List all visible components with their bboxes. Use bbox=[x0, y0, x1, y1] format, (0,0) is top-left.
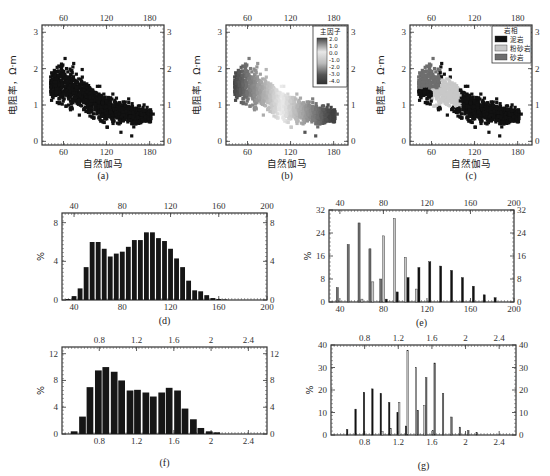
histogram-bar-泥岩 bbox=[355, 409, 357, 435]
histogram-bar-粉砂岩 bbox=[424, 406, 426, 435]
histogram-bar bbox=[132, 240, 137, 300]
x-top-tick-label: 180 bbox=[327, 13, 341, 23]
y-right-tick-label: 4 bbox=[270, 402, 275, 412]
y-tick-label: 1 bbox=[402, 100, 407, 110]
x-top-tick-label: 2.4 bbox=[494, 333, 506, 343]
histogram-bar bbox=[156, 238, 161, 300]
x-tick-label: 60 bbox=[243, 147, 253, 157]
x-tick-label: 120 bbox=[468, 147, 482, 157]
x-tick-label: 1.2 bbox=[131, 436, 142, 446]
x-tick-label: 60 bbox=[427, 147, 437, 157]
x-tick-label: 1.6 bbox=[426, 437, 438, 447]
histogram-bar bbox=[71, 431, 78, 434]
histogram-bar-泥岩 bbox=[363, 392, 365, 435]
x-top-tick-label: 1.2 bbox=[131, 335, 142, 345]
colorbar-tick: 0.0 bbox=[329, 50, 338, 56]
y-right-tick-label: 2 bbox=[535, 64, 540, 74]
histogram-bar-砂岩 bbox=[459, 427, 461, 435]
histogram-bar bbox=[102, 249, 107, 300]
y-right-tick-label: 2 bbox=[351, 64, 356, 74]
histogram-bar bbox=[192, 290, 197, 300]
histogram-bar bbox=[127, 391, 134, 435]
histogram-bar-粉砂岩 bbox=[361, 299, 363, 302]
y-right-tick-label: 4 bbox=[270, 256, 275, 266]
histogram-bar-粉砂岩 bbox=[382, 432, 384, 435]
x-top-tick-label: 120 bbox=[100, 13, 114, 23]
histogram-bar bbox=[190, 419, 197, 434]
x-tick-label: 120 bbox=[164, 302, 178, 312]
histogram-bar bbox=[87, 387, 94, 434]
histogram-bar-粉砂岩 bbox=[390, 428, 392, 435]
x-axis-title: 自然伽马 bbox=[267, 158, 307, 169]
histogram-bar bbox=[180, 267, 185, 300]
histogram-bar bbox=[114, 254, 119, 300]
y-right-tick-label: 0 bbox=[270, 295, 275, 305]
histogram-bar-粉砂岩 bbox=[404, 257, 406, 302]
y-tick-label: 2 bbox=[402, 64, 407, 74]
y-right-tick-label: 2 bbox=[167, 64, 172, 74]
y-tick-label: 0 bbox=[34, 136, 39, 146]
histogram-bar bbox=[216, 299, 221, 300]
y-right-tick-label: 32 bbox=[517, 205, 526, 215]
y-tick-label: 10 bbox=[318, 408, 328, 418]
histogram-bar-泥岩 bbox=[396, 292, 398, 302]
legend-swatch bbox=[495, 36, 507, 42]
x-tick-label: 180 bbox=[327, 147, 341, 157]
legend-label: 粉砂岩 bbox=[510, 44, 531, 53]
x-top-tick-label: 60 bbox=[243, 13, 253, 23]
histogram-bar bbox=[118, 380, 125, 434]
histogram-bar bbox=[206, 431, 213, 434]
y-right-tick-label: 0 bbox=[167, 136, 172, 146]
x-top-tick-label: 0.8 bbox=[94, 335, 106, 345]
panel-label: (g) bbox=[418, 460, 430, 472]
y-tick-label: 0 bbox=[54, 429, 59, 439]
x-top-tick-label: 1.6 bbox=[426, 333, 438, 343]
x-top-tick-label: 40 bbox=[335, 198, 345, 208]
x-top-tick-label: 2.4 bbox=[243, 335, 255, 345]
y-tick-label: 0 bbox=[402, 136, 407, 146]
y-tick-label: 0 bbox=[218, 136, 223, 146]
y-tick-label: 0 bbox=[321, 297, 326, 307]
histogram-bar bbox=[204, 295, 209, 300]
histogram-bar-泥岩 bbox=[418, 268, 420, 303]
histogram-bar bbox=[150, 232, 155, 300]
scatter-points bbox=[417, 57, 523, 138]
colorbar-title: 主因子 bbox=[320, 27, 341, 36]
histogram-bar-泥岩 bbox=[388, 402, 390, 435]
y-right-tick-label: 8 bbox=[270, 218, 275, 228]
histogram-panel-f: 0.80.81.21.21.61.6222.42.40044881212%(f) bbox=[35, 335, 279, 469]
x-top-tick-label: 1.6 bbox=[168, 335, 180, 345]
x-axis-title: 自然伽马 bbox=[83, 158, 123, 169]
histogram-bar-砂岩 bbox=[347, 245, 349, 303]
colorbar-tick: 1.0 bbox=[329, 43, 338, 49]
histogram-bar-砂岩 bbox=[434, 363, 436, 435]
legend-swatch bbox=[495, 45, 507, 51]
histogram-bar-砂岩 bbox=[336, 288, 338, 302]
histogram-bar bbox=[143, 393, 150, 434]
histogram-bar bbox=[72, 296, 77, 300]
histogram-bar bbox=[174, 391, 181, 435]
grouped-histogram-panel-g: 0.80.81.21.21.61.6222.42.400101020203030… bbox=[304, 333, 529, 472]
y-tick-label: 4 bbox=[54, 256, 59, 266]
x-tick-label: 0.8 bbox=[359, 437, 371, 447]
plot-frame bbox=[331, 345, 516, 435]
histogram-bar-粉砂岩 bbox=[407, 351, 409, 435]
histogram-bar bbox=[126, 247, 131, 300]
x-tick-label: 60 bbox=[59, 147, 69, 157]
histogram-bar-泥岩 bbox=[440, 266, 442, 302]
y-tick-label: 3 bbox=[218, 27, 223, 37]
y-axis-title: 电阻率，Ω·m bbox=[375, 55, 386, 115]
histogram-bar-粉砂岩 bbox=[372, 282, 374, 302]
y-right-tick-label: 0 bbox=[517, 297, 522, 307]
colorbar-tick: -2.0 bbox=[329, 64, 340, 70]
x-top-tick-label: 180 bbox=[511, 13, 525, 23]
colorbar-tick: -4.0 bbox=[329, 78, 340, 84]
histogram-bar bbox=[84, 267, 89, 300]
histogram-bar bbox=[213, 432, 220, 434]
y-right-tick-label: 8 bbox=[517, 274, 522, 284]
x-top-tick-label: 60 bbox=[427, 13, 437, 23]
histogram-bar-泥岩 bbox=[385, 299, 387, 302]
y-axis-title: % bbox=[304, 385, 315, 394]
scatter-points bbox=[49, 57, 155, 138]
y-tick-label: 0 bbox=[54, 295, 59, 305]
